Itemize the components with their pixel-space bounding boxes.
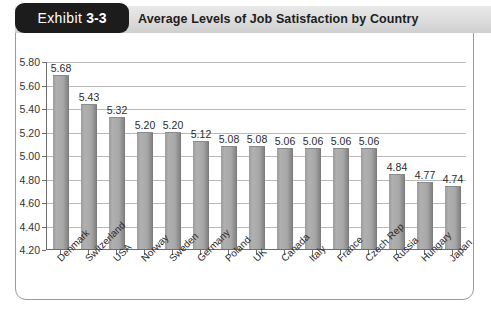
y-axis-tick-mark [42, 86, 46, 87]
bar [333, 148, 350, 249]
y-axis-tick-label: 5.00 [0, 150, 40, 162]
bar [361, 148, 378, 249]
exhibit-badge-number: 3-3 [86, 10, 106, 26]
bar-value-label: 5.06 [271, 135, 299, 147]
bar [249, 146, 266, 249]
bar-value-label: 5.43 [75, 91, 103, 103]
y-axis-tick-label: 4.40 [0, 221, 40, 233]
y-axis-tick-label: 5.60 [0, 80, 40, 92]
gridline [47, 62, 466, 63]
y-axis-tick-mark [42, 203, 46, 204]
bar [137, 132, 154, 250]
y-axis-tick-label: 5.80 [0, 56, 40, 68]
bar-value-label: 5.08 [243, 133, 271, 145]
exhibit-badge-text: Exhibit3-3 [15, 3, 129, 33]
y-axis-tick-mark [42, 180, 46, 181]
bar-value-label: 5.08 [215, 133, 243, 145]
bar-value-label: 4.77 [411, 169, 439, 181]
y-axis-tick-label: 4.80 [0, 174, 40, 186]
bar-value-label: 5.32 [103, 104, 131, 116]
y-axis-tick-label: 5.20 [0, 127, 40, 139]
y-axis-tick-label: 4.60 [0, 197, 40, 209]
y-axis-tick-mark [42, 62, 46, 63]
plot-area-wrapper: 5.685.435.325.205.205.125.085.085.065.06… [46, 62, 466, 250]
exhibit-badge-word: Exhibit [37, 10, 82, 26]
bar-value-label: 5.68 [47, 62, 75, 74]
y-axis-tick-mark [42, 109, 46, 110]
plot-area: 5.685.435.325.205.205.125.085.085.065.06… [46, 62, 466, 250]
y-axis-tick-label: 5.40 [0, 103, 40, 115]
y-axis-tick-mark [42, 250, 46, 251]
exhibit-badge: Exhibit3-3 [15, 3, 129, 33]
exhibit-figure: Average Levels of Job Satisfaction by Co… [0, 0, 491, 325]
y-axis-tick-mark [42, 156, 46, 157]
bar [277, 148, 294, 249]
y-axis-tick-label: 4.20 [0, 244, 40, 256]
y-axis-tick-mark [42, 227, 46, 228]
bar-value-label: 5.20 [131, 119, 159, 131]
bar-value-label: 4.74 [439, 173, 467, 185]
bar [165, 132, 182, 250]
exhibit-title: Average Levels of Job Satisfaction by Co… [138, 6, 478, 33]
y-axis-tick-mark [42, 133, 46, 134]
gridline [47, 86, 466, 87]
bar-value-label: 4.84 [383, 161, 411, 173]
bar-value-label: 5.06 [327, 135, 355, 147]
bar [53, 75, 70, 249]
bar-value-label: 5.06 [355, 135, 383, 147]
bar [417, 182, 434, 249]
bar-value-label: 5.12 [187, 128, 215, 140]
bar-value-label: 5.06 [299, 135, 327, 147]
bar-value-label: 5.20 [159, 119, 187, 131]
